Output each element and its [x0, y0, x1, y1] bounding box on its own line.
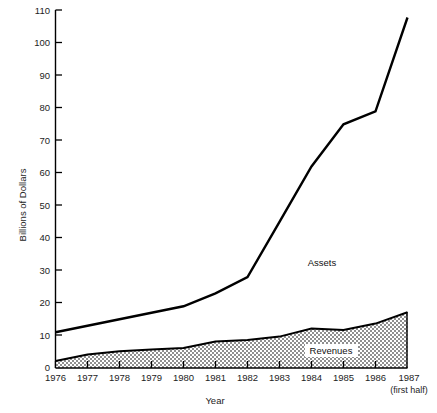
y-tick-label-80: 80: [39, 102, 50, 113]
x-tick-note-first-half: (first half): [390, 385, 428, 395]
x-tick-label-1978: 1978: [109, 372, 130, 383]
x-tick-label-1977: 1977: [77, 372, 98, 383]
x-tick-label-1984: 1984: [301, 372, 322, 383]
assets-label: Assets: [308, 257, 337, 268]
x-tick-label-1982: 1982: [237, 372, 258, 383]
x-tick-label-1980: 1980: [173, 372, 194, 383]
x-tick-label-1979: 1979: [141, 372, 162, 383]
revenues-annotation: Revenues: [305, 344, 358, 357]
y-tick-label-70: 70: [39, 135, 50, 146]
y-tick-label-110: 110: [35, 5, 50, 16]
y-axis-title: Billions of Dollars: [17, 168, 28, 241]
chart-canvas: 110 100 90 80 70 60 50 40 30 20 10 0 Bil…: [0, 0, 437, 413]
x-tick-label-1986: 1986: [365, 372, 386, 383]
x-tick-label-1983: 1983: [269, 372, 290, 383]
y-tick-label-40: 40: [39, 232, 50, 243]
y-tick-label-90: 90: [39, 70, 50, 81]
y-tick-label-10: 10: [39, 330, 50, 341]
revenues-label: Revenues: [310, 345, 353, 356]
y-tick-label-100: 100: [34, 37, 50, 48]
x-tick-label-1985: 1985: [333, 372, 354, 383]
x-axis-title: Year: [205, 395, 224, 406]
y-tick-label-50: 50: [39, 200, 50, 211]
x-tick-label-1976: 1976: [45, 372, 66, 383]
chart-figure: 110 100 90 80 70 60 50 40 30 20 10 0 Bil…: [0, 0, 437, 413]
x-tick-label-1987: 1987: [398, 372, 419, 383]
y-tick-label-20: 20: [39, 297, 50, 308]
y-tick-label-60: 60: [39, 167, 50, 178]
y-tick-label-30: 30: [39, 265, 50, 276]
x-tick-label-1981: 1981: [205, 372, 226, 383]
assets-annotation: Assets: [308, 257, 337, 268]
